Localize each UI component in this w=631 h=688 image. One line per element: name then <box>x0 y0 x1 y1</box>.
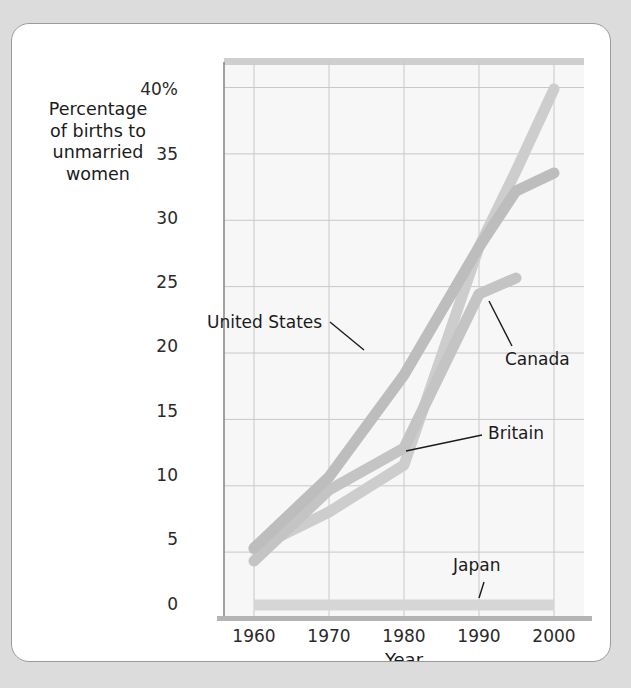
series-label-united-states: United States <box>207 312 322 332</box>
plot-area <box>12 24 611 662</box>
x-tick-1970: 1970 <box>293 626 365 646</box>
x-tick-1980: 1980 <box>368 626 440 646</box>
series-label-canada: Canada <box>505 349 570 369</box>
chart-stage: Percentage of births to unmarried women … <box>12 24 611 662</box>
series-label-britain: Britain <box>488 423 544 443</box>
x-tick-1960: 1960 <box>218 626 290 646</box>
x-axis-title: Year <box>274 649 534 662</box>
x-tick-2000: 2000 <box>518 626 590 646</box>
figure-card: Percentage of births to unmarried women … <box>11 23 611 662</box>
x-tick-1990: 1990 <box>443 626 515 646</box>
series-label-japan: Japan <box>453 555 500 575</box>
